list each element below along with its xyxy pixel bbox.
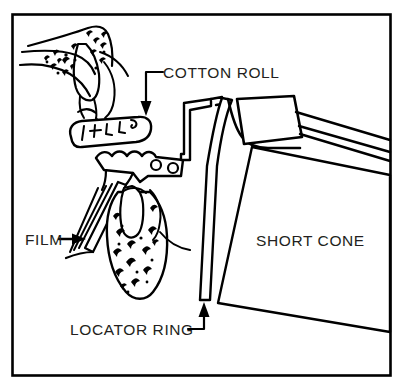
dental-radiography-diagram: COTTON ROLL FILM SHORT CONE LOCATOR RING [0,0,405,388]
figure-root: COTTON ROLL FILM SHORT CONE LOCATOR RING [0,0,405,388]
label-cotton-roll: COTTON ROLL [163,64,280,81]
bite-block-hole-right [168,163,178,173]
bite-block-hole-left [151,160,161,170]
cotton-roll-group [70,117,151,147]
label-short-cone: SHORT CONE [256,232,365,249]
tubehead-body [237,96,302,144]
label-film: FILM [25,231,63,248]
label-locator-ring: LOCATOR RING [70,321,194,338]
